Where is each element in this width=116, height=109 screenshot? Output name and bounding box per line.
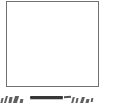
caption-strip [0, 92, 116, 109]
caption-ink-mark-right-3 [80, 97, 85, 103]
caption-ink-mark-right-2 [75, 98, 78, 103]
caption-ink-dash-right [64, 96, 71, 98]
caption-ink-mark-left-5 [20, 99, 24, 103]
caption-ink-mark-right-4 [86, 99, 90, 103]
figure-frame-box [6, 1, 99, 87]
caption-ink-mark-right-5 [91, 98, 94, 102]
horizontal-rule-bar-shadow [30, 99, 63, 100]
caption-ink-mark-left-4 [13, 96, 19, 103]
caption-ink-mark-right-1 [71, 97, 75, 103]
figure-interior-blank-area [7, 2, 98, 86]
scanned-page-fragment [0, 0, 116, 109]
